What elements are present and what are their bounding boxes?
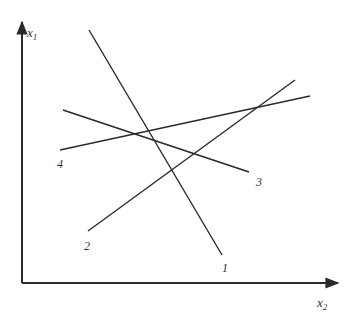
line-4: [60, 96, 310, 150]
line-label-4: 4: [57, 158, 63, 170]
axes: [22, 22, 338, 283]
line-label-2: 2: [84, 240, 90, 252]
line-3: [63, 110, 249, 172]
line-1: [89, 30, 222, 255]
line-2: [88, 80, 295, 231]
x2-axis-label-subscript: 2: [323, 302, 328, 312]
lines: [60, 30, 310, 255]
x1-axis-label: x1: [27, 26, 37, 42]
line-label-3: 3: [256, 176, 262, 188]
diagram-canvas: [0, 0, 350, 321]
x1-axis-label-subscript: 1: [33, 32, 38, 42]
x2-axis-label: x2: [317, 296, 327, 312]
line-label-1: 1: [222, 262, 228, 274]
